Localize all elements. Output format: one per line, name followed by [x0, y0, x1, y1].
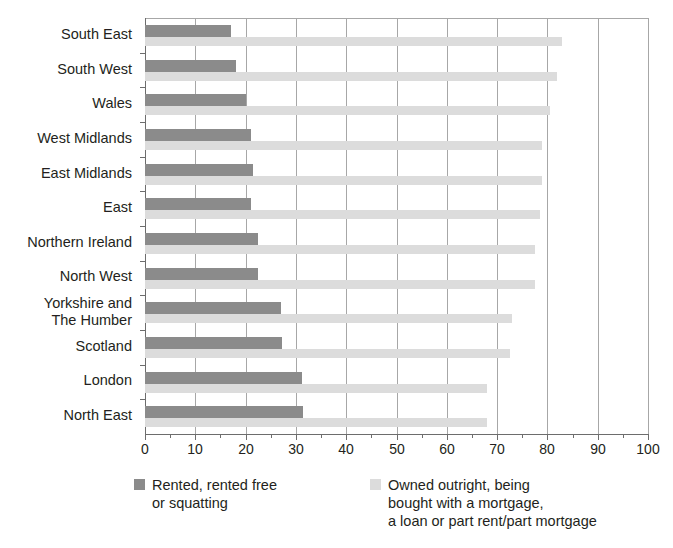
category-tick-3: [140, 122, 145, 123]
legend-entry-rented: Rented, rented free or squatting: [134, 476, 277, 512]
x-minor-tick-45: [371, 435, 372, 438]
category-label-9: Scotland: [0, 338, 132, 355]
x-tick-label-10: 10: [187, 441, 203, 457]
x-minor-tick-15: [220, 435, 221, 438]
legend-label-rented: Rented, rented free or squatting: [152, 476, 277, 512]
x-tick-label-60: 60: [439, 441, 455, 457]
x-minor-tick-95: [623, 435, 624, 438]
x-tick-label-20: 20: [238, 441, 254, 457]
x-minor-tick-25: [271, 435, 272, 438]
category-label-10: London: [0, 372, 132, 389]
legend-label-owned: Owned outright, being bought with a mort…: [388, 476, 597, 530]
bar-rented-2: [145, 94, 246, 106]
category-label-2: Wales: [0, 95, 132, 112]
dark-gray-swatch: [134, 479, 145, 490]
bar-owned-10: [145, 384, 487, 393]
bar-owned-8: [145, 314, 512, 323]
x-tick-label-30: 30: [288, 441, 304, 457]
category-label-6: Northern Ireland: [0, 234, 132, 251]
x-tick-label-70: 70: [489, 441, 505, 457]
x-tick-70: [497, 435, 498, 440]
bar-rented-11: [145, 406, 303, 418]
bar-rented-6: [145, 233, 258, 245]
bar-owned-4: [145, 176, 542, 185]
x-tick-50: [397, 435, 398, 440]
bar-owned-6: [145, 245, 535, 254]
bar-owned-9: [145, 349, 510, 358]
chart-legend: Rented, rented free or squatting Owned o…: [0, 470, 673, 548]
x-minor-tick-75: [522, 435, 523, 438]
x-tick-label-0: 0: [141, 441, 149, 457]
x-minor-tick-85: [573, 435, 574, 438]
x-tick-0: [145, 435, 146, 440]
x-tick-100: [648, 435, 649, 440]
x-tick-40: [346, 435, 347, 440]
bar-owned-7: [145, 280, 535, 289]
x-tick-80: [547, 435, 548, 440]
x-tick-label-40: 40: [338, 441, 354, 457]
x-tick-10: [195, 435, 196, 440]
x-minor-tick-35: [321, 435, 322, 438]
x-minor-tick-65: [472, 435, 473, 438]
category-tick-9: [140, 330, 145, 331]
category-label-3: West Midlands: [0, 130, 132, 147]
category-label-5: East: [0, 199, 132, 216]
category-label-0: South East: [0, 26, 132, 43]
bar-owned-5: [145, 210, 540, 219]
bar-rented-9: [145, 337, 282, 349]
bar-owned-3: [145, 141, 542, 150]
category-tick-8: [140, 295, 145, 296]
category-label-11: North East: [0, 407, 132, 424]
category-tick-6: [140, 226, 145, 227]
category-tick-10: [140, 365, 145, 366]
x-tick-20: [246, 435, 247, 440]
x-tick-30: [296, 435, 297, 440]
bar-owned-11: [145, 418, 487, 427]
category-tick-11: [140, 399, 145, 400]
category-tick-2: [140, 87, 145, 88]
x-tick-label-50: 50: [389, 441, 405, 457]
bar-rented-3: [145, 129, 251, 141]
bar-rented-8: [145, 302, 281, 314]
x-minor-tick-5: [170, 435, 171, 438]
category-label-4: East Midlands: [0, 165, 132, 182]
bar-rented-5: [145, 198, 251, 210]
legend-entry-owned: Owned outright, being bought with a mort…: [370, 476, 597, 530]
category-tick-5: [140, 191, 145, 192]
bar-rented-1: [145, 60, 236, 72]
category-label-1: South West: [0, 61, 132, 78]
x-tick-label-80: 80: [539, 441, 555, 457]
gridline-100: [648, 18, 649, 434]
bar-rented-7: [145, 268, 258, 280]
x-tick-label-100: 100: [636, 441, 659, 457]
category-tick-4: [140, 157, 145, 158]
bar-chart: 0102030405060708090100 South EastSouth W…: [0, 0, 673, 548]
bar-rented-10: [145, 372, 302, 384]
light-gray-swatch: [370, 479, 381, 490]
gridline-90: [598, 18, 599, 434]
bar-owned-1: [145, 72, 557, 81]
category-tick-1: [140, 53, 145, 54]
x-tick-90: [598, 435, 599, 440]
category-tick-7: [140, 261, 145, 262]
x-minor-tick-55: [422, 435, 423, 438]
bar-owned-0: [145, 37, 562, 46]
bar-rented-0: [145, 25, 231, 37]
x-tick-60: [447, 435, 448, 440]
category-label-7: North West: [0, 268, 132, 285]
bar-owned-2: [145, 106, 550, 115]
bar-rented-4: [145, 164, 253, 176]
category-label-8: Yorkshire and The Humber: [0, 295, 132, 329]
x-tick-label-90: 90: [590, 441, 606, 457]
